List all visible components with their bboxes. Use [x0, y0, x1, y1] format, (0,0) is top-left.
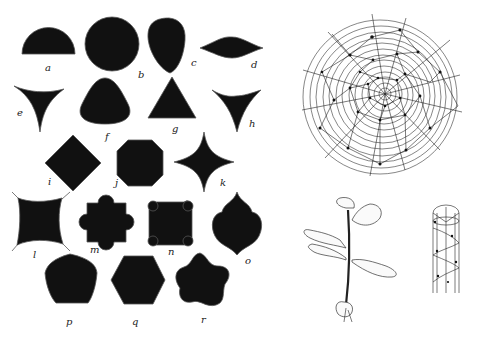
- shape-g-triangle: g: [148, 77, 196, 134]
- shape-q-hexagon: q: [111, 256, 165, 327]
- shape-d-lens: d: [200, 37, 263, 70]
- svg-text:r: r: [201, 314, 207, 325]
- shape-j-octagon: j: [113, 140, 163, 188]
- svg-text:i: i: [48, 176, 51, 187]
- shape-k-concave-star: k: [174, 132, 234, 192]
- svg-text:j: j: [113, 177, 118, 188]
- svg-text:a: a: [45, 62, 51, 73]
- svg-text:g: g: [172, 123, 178, 134]
- shape-p-pentagon: p: [45, 254, 97, 327]
- svg-text:c: c: [191, 57, 197, 68]
- shape-r-star: r: [176, 253, 229, 325]
- svg-text:b: b: [138, 69, 144, 80]
- svg-text:h: h: [249, 118, 255, 129]
- svg-text:d: d: [251, 59, 257, 70]
- svg-text:n: n: [168, 246, 174, 257]
- botanical-plate: a b c d e f g h i j k: [0, 0, 487, 341]
- spiral-diagram: [302, 14, 462, 176]
- shape-m-lobed-cross: m: [79, 195, 134, 255]
- shape-a-semicircle: a: [22, 28, 75, 73]
- svg-text:q: q: [132, 316, 138, 327]
- svg-text:o: o: [245, 255, 251, 266]
- svg-text:f: f: [104, 131, 111, 142]
- shape-i-rhombus: i: [45, 135, 101, 191]
- svg-text:e: e: [17, 107, 23, 118]
- shape-n-rounded-square: n: [148, 201, 193, 257]
- svg-text:k: k: [220, 177, 226, 188]
- svg-text:l: l: [33, 249, 36, 260]
- shape-o-ogee: o: [212, 192, 261, 266]
- shape-e-concave-triangle: e: [14, 86, 64, 132]
- svg-text:p: p: [66, 316, 73, 327]
- shape-b-circle: b: [85, 17, 144, 80]
- svg-text:m: m: [90, 244, 99, 255]
- shape-f-rounded-triangle: f: [80, 78, 130, 142]
- shape-l-winged-square: l: [12, 192, 70, 260]
- shape-c-ovate: c: [148, 18, 197, 73]
- shape-h-concave-triangle-inverted: h: [212, 90, 261, 132]
- oak-seedling: [304, 197, 396, 322]
- cylinder-diagram: [433, 205, 459, 293]
